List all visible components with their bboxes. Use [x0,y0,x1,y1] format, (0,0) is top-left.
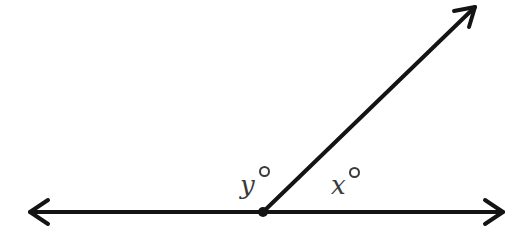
ray-line [263,7,475,212]
angle-diagram [0,0,531,238]
angle-label-x: x [331,172,346,198]
degree-symbol-x [349,167,360,178]
angle-label-y: y [240,172,255,198]
vertex-point [258,207,268,217]
degree-symbol-y [259,166,270,177]
